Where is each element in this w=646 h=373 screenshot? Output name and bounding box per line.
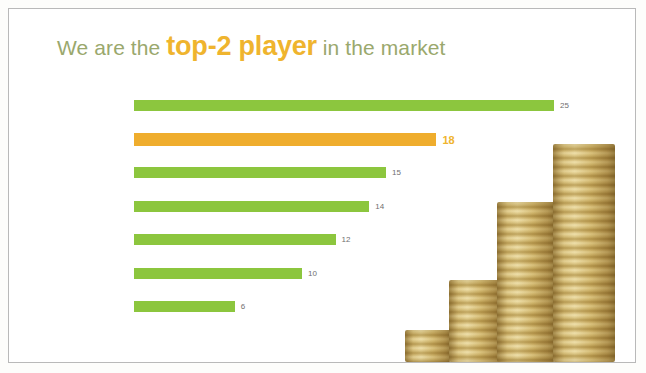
bar-value-label: 15 [392, 160, 401, 186]
title-text-after: in the market [317, 36, 446, 59]
bar-label-wrap: Company #3 [9, 261, 130, 287]
bar-category-label: Our Company [8, 127, 9, 153]
page-title: We are the top-2 player in the market [57, 33, 446, 60]
bar-row: Market leader25 [9, 93, 636, 119]
bar-label-wrap: Company #1 [9, 194, 130, 220]
bar-category-label: Company #3 [8, 261, 9, 287]
bar-label-wrap: Company #6 [9, 227, 130, 253]
bar-label-wrap: Market leader [9, 93, 130, 119]
bar-segment [134, 167, 386, 178]
bar-row: Company #415 [9, 160, 636, 186]
bar-row: Company #26 [9, 294, 636, 320]
bar-row: Our Company18 [9, 127, 636, 153]
slide-canvas: We are the top-2 player in the market Ma… [0, 0, 646, 373]
bar-segment [134, 301, 235, 312]
bar-segment [134, 268, 302, 279]
bar-segment [134, 100, 554, 111]
bar-label-wrap: Company #2 [9, 294, 130, 320]
horizontal-bar-chart: Market leader25Our Company18Company #415… [9, 93, 636, 353]
bar-row: Company #114 [9, 194, 636, 220]
bar-row: Company #612 [9, 227, 636, 253]
bar-value-label: 18 [442, 127, 454, 153]
bar-category-label: Company #2 [8, 294, 9, 320]
bar-category-label: Company #4 [8, 160, 9, 186]
bar-segment [134, 133, 436, 146]
bar-value-label: 14 [375, 194, 384, 220]
bar-category-label: Company #6 [8, 227, 9, 253]
bar-value-label: 12 [342, 227, 351, 253]
bar-value-label: 25 [560, 93, 569, 119]
bar-segment [134, 234, 336, 245]
bar-segment [134, 201, 369, 212]
bar-category-label: Market leader [8, 93, 9, 119]
slide-frame: We are the top-2 player in the market Ma… [8, 8, 636, 363]
title-text-accent: top-2 player [166, 31, 317, 61]
bar-label-wrap: Company #4 [9, 160, 130, 186]
bar-label-wrap: Our Company [9, 127, 130, 153]
bar-row: Company #310 [9, 261, 636, 287]
bar-category-label: Company #1 [8, 194, 9, 220]
bar-value-label: 6 [241, 294, 245, 320]
title-text-before: We are the [57, 36, 166, 59]
bar-value-label: 10 [308, 261, 317, 287]
